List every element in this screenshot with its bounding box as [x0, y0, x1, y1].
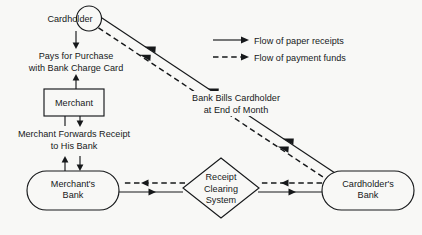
node-merchants-bank-label-line1: Merchant's	[51, 179, 96, 189]
legend-label-payment-funds: Flow of payment funds	[254, 53, 346, 63]
edge-cardholder-to-purchase-label	[73, 31, 80, 49]
arrowhead-bank-receipt-down	[77, 165, 84, 172]
payment-flow-diagram: Cardholder Pays for Purchase with Bank C…	[0, 0, 422, 235]
edge-label-pays-for-purchase-line1: Pays for Purchase	[39, 51, 114, 61]
edge-label-merchant-forwards-line1: Merchant Forwards Receipt	[18, 129, 131, 139]
arrowhead-solid-upper	[145, 47, 156, 53]
edge-label-pays-for-purchase-line2: with Bank Charge Card	[28, 63, 123, 73]
node-cardholders-bank-label-line1: Cardholder's	[342, 179, 394, 189]
edge-merchant-to-purchase-label	[73, 74, 80, 89]
edge-label-bank-bills-line1: Bank Bills Cardholder	[192, 93, 280, 103]
node-merchant-label: Merchant	[55, 98, 94, 108]
arrowhead-left-funds-to-clearing	[281, 180, 289, 187]
legend-item-paper-receipts: Flow of paper receipts	[213, 36, 344, 46]
edge-merchants-bank-to-clearing	[119, 180, 185, 196]
arrowhead-right-receipts-to-cardholders-bank	[289, 189, 297, 196]
node-cardholders-bank-label-line2: Bank	[358, 190, 379, 200]
node-clearing-label-line3: System	[206, 195, 236, 205]
arrowhead-right-receipts-to-clearing	[149, 189, 157, 196]
arrowhead-cardholder-down	[73, 43, 80, 50]
node-cardholder-label: Cardholder	[47, 14, 92, 24]
arrowhead-solid-lower	[283, 138, 294, 144]
legend-label-paper-receipts: Flow of paper receipts	[254, 36, 344, 46]
legend: Flow of paper receipts Flow of payment f…	[213, 36, 346, 63]
edge-label-bank-bills-line2: at End of Month	[204, 105, 269, 115]
arrowhead-left-funds-to-merchants-bank	[141, 180, 149, 187]
arrowhead-bank-funds-up	[62, 156, 69, 163]
edge-label-merchant-forwards-line2: to His Bank	[51, 141, 98, 151]
diagram-canvas: Cardholder Pays for Purchase with Bank C…	[0, 0, 422, 235]
arrowhead-dashed-lower	[278, 147, 289, 153]
edge-merchants-bank-to-forwards-label	[62, 156, 84, 171]
node-clearing-label-line2: Clearing	[204, 184, 238, 194]
legend-solid-arrowhead-icon	[241, 37, 249, 44]
legend-item-payment-funds: Flow of payment funds	[213, 53, 346, 63]
arrowhead-merchant-receipt-down	[77, 121, 84, 128]
arrowhead-merchant-up	[73, 74, 80, 81]
legend-dashed-arrowhead-icon	[241, 54, 249, 61]
arrowhead-dashed-upper	[140, 55, 151, 61]
edge-merchant-to-forwards-label	[65, 116, 83, 127]
node-clearing-label-line1: Receipt	[206, 172, 237, 182]
node-merchants-bank-label-line2: Bank	[63, 190, 84, 200]
edge-clearing-to-cardholders-bank	[258, 180, 322, 196]
